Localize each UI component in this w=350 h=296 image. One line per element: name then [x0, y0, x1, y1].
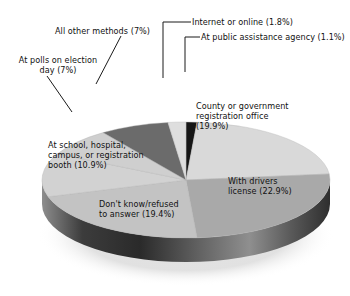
slice-label-county-government: County or government registration office… [196, 101, 289, 132]
slice-label-all-other-methods: All other methods (7%) [55, 26, 150, 36]
slice-label-internet-online: Internet or online (1.8%) [192, 17, 293, 27]
slice-label-drivers-license: With drivers license (22.9%) [228, 176, 292, 196]
slice-label-polls-election-day: At polls on election day (7%) [8, 55, 108, 75]
leader-line-public-assistance [185, 37, 200, 72]
leader-line-internet [163, 22, 191, 78]
slice-label-dont-know: Don't know/refused to answer (19.4%) [99, 199, 179, 219]
slice-label-public-assistance: At public assistance agency (1.1%) [201, 32, 345, 42]
pie-chart: Internet or online (1.8%) At public assi… [0, 0, 350, 296]
slice-label-school-hospital: At school, hospital, campus, or registra… [48, 140, 144, 171]
leader-line-polls [47, 76, 72, 112]
